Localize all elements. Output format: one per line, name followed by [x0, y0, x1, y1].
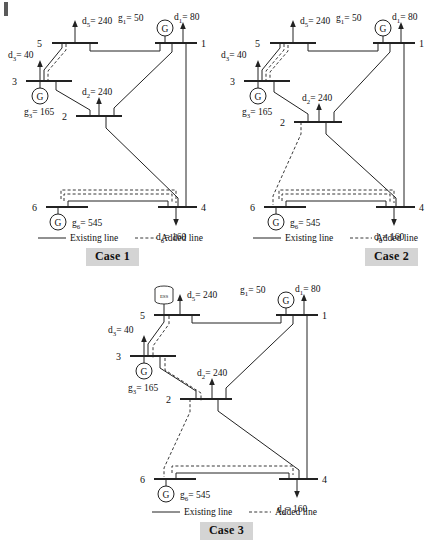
- generation-label-1: g1= 50: [118, 13, 144, 25]
- bus-label-3: 3: [230, 76, 235, 87]
- generation-label-6: g6= 545: [180, 490, 210, 502]
- bus-label-1: 1: [322, 310, 327, 321]
- added-line-2-6: [164, 399, 190, 477]
- case-2-label: Case 2: [365, 248, 418, 266]
- demand-label-5: d5= 240: [300, 16, 330, 28]
- demand-arrowhead-4: [391, 219, 397, 226]
- added-line-6-4-a: [172, 466, 293, 475]
- generation-label-6: g6= 545: [290, 218, 320, 230]
- generator-letter-1: G: [162, 24, 169, 34]
- generator-letter-1: G: [283, 296, 290, 306]
- line-5-1: [90, 43, 160, 51]
- line-5-3: [262, 43, 280, 81]
- generation-label-3: g3= 165: [128, 383, 158, 395]
- generator-letter-3: G: [141, 367, 148, 377]
- generator-letter-1: G: [380, 24, 387, 34]
- line-2-1: [226, 315, 293, 399]
- bus-label-4: 4: [322, 474, 327, 485]
- demand-label-3: d3= 40: [221, 50, 247, 62]
- bus-label-4: 4: [419, 202, 424, 213]
- demand-label-1: d1= 80: [392, 12, 418, 24]
- bus-label-1: 1: [419, 38, 424, 49]
- bus-label-3: 3: [12, 76, 17, 87]
- demand-label-6-bus4: d6= 160: [156, 232, 186, 244]
- demand-arrowhead-3: [141, 335, 147, 342]
- generator-letter-6: G: [55, 218, 62, 228]
- bus-label-4: 4: [201, 202, 206, 213]
- added-line-6-4-a: [282, 194, 390, 203]
- case-1-label: Case 1: [86, 248, 139, 266]
- demand-label-2: d2= 240: [197, 368, 227, 380]
- generation-label-3: g3= 165: [242, 107, 272, 119]
- bus-label-5: 5: [255, 38, 260, 49]
- ess-label-5: ESS: [160, 294, 168, 299]
- generation-label-1: g1= 50: [336, 13, 362, 25]
- demand-arrowhead-3: [255, 60, 261, 67]
- demand-label-6-bus4: d6= 160: [277, 504, 307, 516]
- added-line-6-4-a: [64, 194, 172, 203]
- bus-label-6: 6: [250, 202, 255, 213]
- bus-label-2: 2: [62, 111, 67, 122]
- ess-storage-icon-5: ESS: [155, 286, 173, 304]
- demand-arrowhead-2: [209, 378, 215, 385]
- demand-arrowhead-2: [96, 97, 102, 104]
- added-line-2-6: [273, 122, 301, 205]
- demand-arrowhead-3: [37, 60, 43, 67]
- generation-label-3: g3= 165: [24, 107, 54, 119]
- demand-label-1: d1= 80: [174, 12, 200, 24]
- generation-label-1: g1= 50: [240, 285, 266, 297]
- bus-label-5: 5: [37, 38, 42, 49]
- case-2-diagram: 5 d5= 240 3 d3= 40 G g3= 165 1 d1= 80 G …: [215, 0, 437, 272]
- demand-label-1: d1= 80: [295, 284, 321, 296]
- demand-label-2: d2= 240: [82, 87, 112, 99]
- bus-label-1: 1: [201, 38, 206, 49]
- line-5-3: [44, 43, 62, 81]
- demand-arrowhead-5: [177, 294, 183, 301]
- case-3-diagram: ESS 5 d5= 240 3 d3= 40 G g3= 165 1 d1= 8…: [104, 272, 354, 544]
- line-5-3: [148, 315, 164, 356]
- bus-label-2: 2: [166, 394, 171, 405]
- line-2-4: [218, 399, 299, 479]
- line-5-1: [308, 43, 378, 51]
- generation-label-6: g6= 545: [72, 218, 102, 230]
- case-1-diagram: 5 d5= 240 3 d3= 40 G g3= 165 1 d1= 80: [0, 0, 218, 272]
- demand-arrowhead-4: [294, 491, 300, 498]
- demand-label-6-bus4: d6= 160: [374, 232, 404, 244]
- added-line-5-3-a: [153, 316, 169, 358]
- bus-label-3: 3: [116, 351, 121, 362]
- bus-label-6: 6: [32, 202, 37, 213]
- demand-arrowhead-2: [316, 103, 322, 110]
- bus-label-5: 5: [140, 310, 145, 321]
- demand-label-2: d2= 240: [302, 93, 332, 105]
- demand-arrowhead-5: [290, 20, 296, 27]
- line-2-1: [114, 43, 172, 116]
- generator-letter-3: G: [37, 92, 44, 102]
- line-3-2: [160, 356, 196, 399]
- bus-label-2: 2: [280, 117, 285, 128]
- generator-letter-6: G: [163, 490, 170, 500]
- line-2-1: [334, 43, 390, 122]
- line-2-4: [106, 116, 178, 207]
- demand-arrowhead-5: [72, 20, 78, 27]
- line-5-1: [192, 315, 281, 323]
- bus-label-6: 6: [140, 474, 145, 485]
- demand-label-3: d3= 40: [108, 325, 134, 337]
- demand-label-3: d3= 40: [8, 50, 34, 62]
- demand-label-5: d5= 240: [187, 290, 217, 302]
- generator-letter-6: G: [273, 218, 280, 228]
- generator-letter-3: G: [255, 92, 262, 102]
- demand-label-5: d5= 240: [82, 16, 112, 28]
- figure-page: 5 d5= 240 3 d3= 40 G g3= 165 1 d1= 80: [0, 0, 437, 549]
- bottom-caption: [4, 538, 304, 548]
- demand-arrowhead-4: [173, 219, 179, 226]
